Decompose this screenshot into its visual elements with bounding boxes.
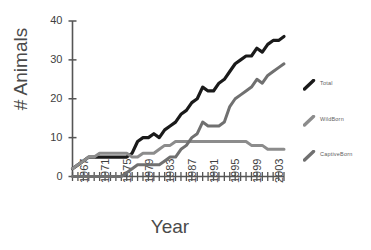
data-series-group [73,37,285,177]
series-line-total [73,37,285,169]
legend-swatch-icon [303,77,316,89]
line-chart-figure: # Animals Year 010203040 196719711975197… [0,0,371,250]
legend-item-total[interactable]: Total [303,76,333,90]
legend-label: Total [320,80,333,86]
legend-label: WildBorn [320,116,344,122]
legend-swatch-icon [303,113,316,125]
legend-label: CaptiveBorn [320,151,352,157]
legend-item-wildborn[interactable]: WildBorn [303,112,344,126]
legend-item-captiveborn[interactable]: CaptiveBorn [303,147,352,161]
legend-swatch-icon [303,148,316,160]
